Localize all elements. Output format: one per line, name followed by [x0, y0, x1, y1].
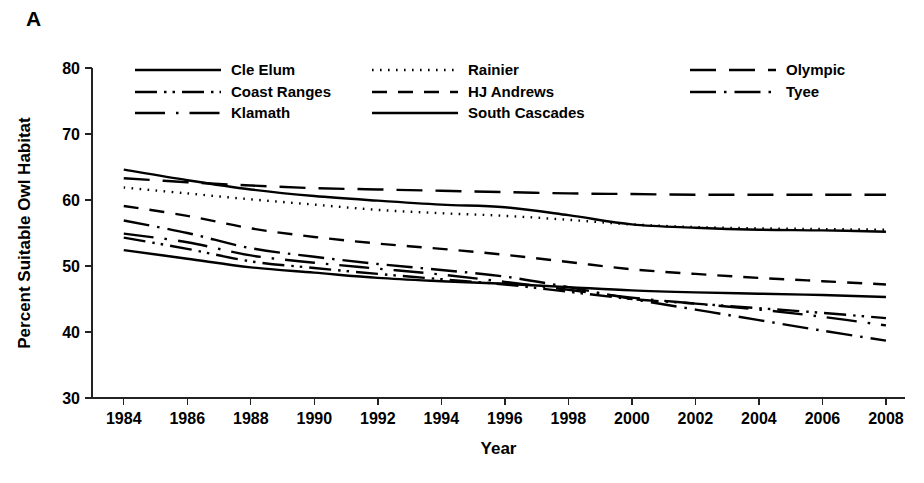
y-tick-label: 70	[62, 126, 80, 143]
x-tick-label: 1996	[487, 410, 523, 427]
x-axis-title: Year	[481, 439, 517, 458]
series-line	[124, 178, 886, 195]
series-group	[124, 170, 886, 341]
legend-label: Cle Elum	[231, 61, 295, 78]
x-tick-label: 1984	[106, 410, 142, 427]
legend-label: HJ Andrews	[468, 83, 554, 100]
legend-label: Olympic	[786, 61, 845, 78]
figure-root: A 30405060708019841986198819901992199419…	[0, 0, 924, 483]
x-tick-label: 1992	[360, 410, 396, 427]
x-tick-label: 1990	[297, 410, 333, 427]
legend-label: South Cascades	[468, 104, 585, 121]
x-tick-label: 1986	[169, 410, 205, 427]
x-tick-label: 2006	[805, 410, 841, 427]
y-axis-title: Percent Suitable Owl Habitat	[15, 117, 34, 349]
line-chart: 3040506070801984198619881990199219941996…	[0, 0, 924, 483]
legend-label: Coast Ranges	[231, 83, 331, 100]
legend-label: Rainier	[468, 61, 519, 78]
x-tick-label: 1988	[233, 410, 269, 427]
y-tick-label: 80	[62, 60, 80, 77]
series-line	[124, 206, 886, 285]
series-line	[124, 250, 886, 297]
x-tick-label: 1998	[551, 410, 587, 427]
x-tick-label: 2008	[868, 410, 904, 427]
x-tick-label: 2002	[678, 410, 714, 427]
y-tick-label: 50	[62, 258, 80, 275]
y-tick-label: 30	[62, 390, 80, 407]
series-line	[124, 170, 886, 232]
legend-label: Tyee	[786, 83, 819, 100]
y-tick-label: 40	[62, 324, 80, 341]
legend-label: Klamath	[231, 104, 290, 121]
axis-labels-group: YearPercent Suitable Owl Habitat	[15, 117, 517, 458]
series-line	[124, 220, 886, 340]
x-tick-label: 1994	[424, 410, 460, 427]
x-tick-label: 2004	[741, 410, 777, 427]
legend-group: Cle ElumRainierOlympicCoast RangesHJ And…	[135, 61, 845, 121]
y-tick-label: 60	[62, 192, 80, 209]
x-tick-label: 2000	[614, 410, 650, 427]
